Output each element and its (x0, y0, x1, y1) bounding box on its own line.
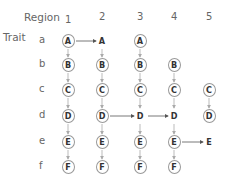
trait-label-c: c (39, 83, 45, 94)
node-b1: B (62, 58, 75, 72)
node-b3: B (134, 58, 147, 72)
node-a2: A (96, 35, 108, 48)
node-c2: C (96, 83, 109, 97)
node-d3: D (134, 110, 146, 123)
node-e4: E (168, 135, 181, 149)
node-b2: B (96, 58, 109, 72)
node-d1: D (62, 109, 75, 123)
trait-label-f: f (39, 160, 43, 171)
region-label-5: 5 (206, 11, 212, 22)
node-d5: D (203, 109, 216, 123)
trait-label-b: b (39, 58, 45, 69)
node-a1: A (62, 34, 75, 48)
node-f1: F (62, 160, 75, 174)
node-c4: C (168, 83, 181, 97)
trait-label-d: d (39, 109, 45, 120)
node-d4: D (168, 110, 180, 123)
edges-layer (0, 0, 226, 184)
node-f2: F (96, 160, 109, 174)
node-e2: E (96, 135, 109, 149)
region-label-4: 4 (171, 11, 177, 22)
region-label-1: 1 (65, 14, 71, 25)
node-f4: F (168, 160, 181, 174)
node-e1: E (62, 135, 75, 149)
trait-label-e: e (39, 135, 45, 146)
node-f3: F (134, 160, 147, 174)
region-label-2: 2 (99, 11, 105, 22)
region-label-3: 3 (137, 11, 143, 22)
trait-header-label: Trait (3, 31, 26, 43)
node-c1: C (62, 83, 75, 97)
node-d2: D (96, 109, 109, 123)
node-a3: A (134, 34, 147, 48)
node-c3: C (134, 83, 147, 97)
trait-label-a: a (39, 34, 45, 45)
region-header-label: Region (24, 11, 60, 23)
node-e5: E (203, 136, 215, 149)
node-e3: E (134, 135, 147, 149)
node-c5: C (203, 83, 216, 97)
node-b4: B (168, 58, 181, 72)
